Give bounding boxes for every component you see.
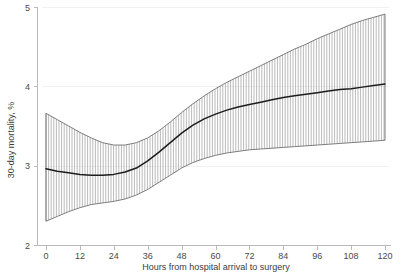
x-tick-label: 60 (210, 251, 220, 261)
x-tick-label: 96 (312, 251, 322, 261)
x-tick-label: 72 (244, 251, 254, 261)
x-tick-label: 36 (143, 251, 153, 261)
y-tick-label: 3 (25, 161, 30, 171)
x-axis-title: Hours from hospital arrival to surgery (142, 262, 290, 272)
y-axis-tick-labels: 2345 (25, 3, 30, 251)
y-tick-label: 4 (25, 82, 30, 92)
x-tick-label: 48 (177, 251, 187, 261)
y-axis-title: 30-day mortality, % (6, 102, 16, 178)
y-tick-label: 5 (25, 3, 30, 13)
axes (38, 7, 392, 246)
x-axis-tick-labels: 01224364860728496108120 (43, 251, 392, 261)
x-tick-label: 108 (344, 251, 359, 261)
x-tick-label: 0 (43, 251, 48, 261)
x-tick-label: 12 (75, 251, 85, 261)
confidence-interval-band (46, 14, 385, 221)
y-tick-label: 2 (25, 241, 30, 251)
x-tick-label: 84 (278, 251, 288, 261)
fit-line (46, 84, 385, 175)
x-tick-label: 120 (377, 251, 392, 261)
x-tick-label: 24 (109, 251, 119, 261)
mortality-line-chart: 01224364860728496108120 2345 Hours from … (0, 0, 404, 275)
chart-figure: 01224364860728496108120 2345 Hours from … (0, 0, 404, 275)
